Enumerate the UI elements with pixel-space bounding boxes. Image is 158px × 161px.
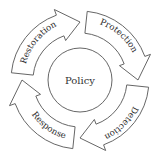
- policy-cycle-diagram: Protection Detection Response Restoratio…: [0, 0, 158, 161]
- policy-label: Policy: [65, 75, 95, 86]
